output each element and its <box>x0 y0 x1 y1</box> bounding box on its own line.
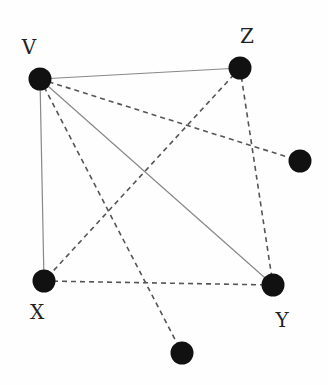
graph-diagram: VZXY <box>0 0 328 385</box>
node-unlabeled-b <box>171 342 194 365</box>
node-x <box>33 270 56 293</box>
node-z <box>229 57 252 80</box>
edge-v-z <box>40 68 240 79</box>
graph-svg: VZXY <box>0 0 328 385</box>
node-label-v: V <box>21 35 37 59</box>
edge-v-y <box>40 79 273 285</box>
edge-x-y <box>44 281 273 285</box>
edge-v-x <box>40 79 44 281</box>
node-label-x: X <box>30 300 45 324</box>
node-y <box>262 274 285 297</box>
node-unlabeled-r <box>289 150 312 173</box>
edges-layer <box>40 68 300 353</box>
node-label-y: Y <box>274 308 289 332</box>
edge-z-x <box>44 68 240 281</box>
node-v <box>29 68 52 91</box>
nodes-layer <box>29 57 312 365</box>
node-label-z: Z <box>240 24 254 48</box>
edge-v-b <box>40 79 182 353</box>
edge-v-r <box>40 79 300 161</box>
edge-z-y <box>240 68 273 285</box>
